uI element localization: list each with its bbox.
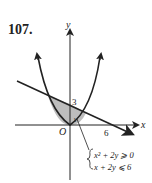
- inequality-1: x² + 2y ⩾ 0: [93, 150, 135, 160]
- x-intercept-label: 6: [104, 128, 109, 138]
- y-axis-label: y: [65, 19, 71, 30]
- point-label: 1: [73, 116, 77, 124]
- x-axis-label: x: [140, 119, 146, 130]
- inequality-2: x + 2y ⩽ 6: [93, 162, 132, 172]
- origin-label: O: [59, 126, 66, 137]
- boundary-line: [17, 81, 132, 134]
- leader-line: [77, 119, 89, 150]
- y-intercept-label: 3: [72, 97, 77, 107]
- brace: [87, 149, 93, 169]
- graph: y x O 3 6 1 x² + 2y ⩾ 0 x + 2y ⩽ 6: [0, 0, 152, 183]
